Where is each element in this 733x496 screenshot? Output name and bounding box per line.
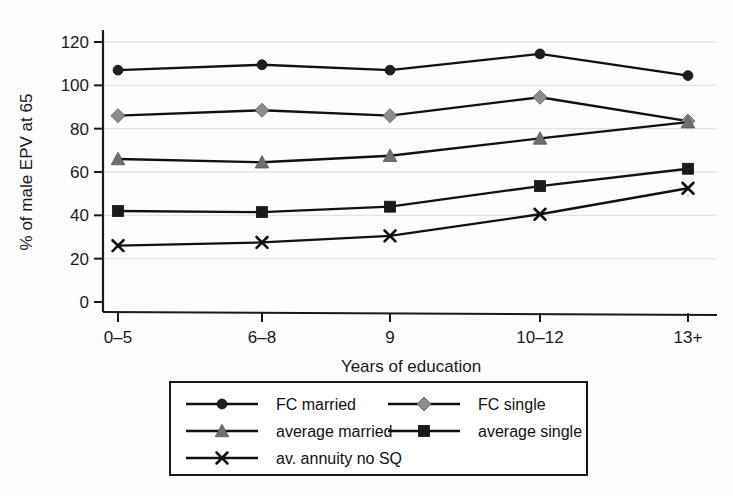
data-point-circle [257,60,267,70]
y-tick-label: 80 [70,120,89,139]
data-point-square [385,201,396,212]
data-point-circle [217,399,227,409]
data-point-square [683,163,694,174]
line-chart: 020406080100120 0–56–8910–1213+ % of mal… [0,0,733,496]
x-tick-label: 6–8 [248,328,276,347]
data-point-square [419,426,430,437]
y-tick-label: 40 [70,206,89,225]
data-point-circle [385,65,395,75]
y-tick-label: 100 [61,76,89,95]
y-tick-label: 0 [80,293,89,312]
chart-figure: 020406080100120 0–56–8910–1213+ % of mal… [0,0,733,496]
data-point-square [257,207,268,218]
y-axis-title: % of male EPV at 65 [17,94,36,251]
y-tick-label: 20 [70,250,89,269]
x-tick-label: 13+ [674,328,703,347]
x-axis-title: Years of education [341,357,481,376]
legend-label: FC married [276,396,356,413]
data-point-circle [113,65,123,75]
legend-label: average married [276,423,393,440]
legend-label: FC single [478,396,546,413]
y-tick-label: 120 [61,33,89,52]
data-point-circle [683,71,693,81]
data-point-circle [535,49,545,59]
legend-label: av. annuity no SQ [276,450,402,467]
data-point-square [535,181,546,192]
legend-label: average single [478,423,582,440]
legend-group: FC marriedFC singleaverage marriedaverag… [170,382,587,475]
x-tick-label: 10–12 [516,328,563,347]
x-tick-label: 9 [385,328,394,347]
data-point-square [113,206,124,217]
y-tick-label: 60 [70,163,89,182]
x-tick-label: 0–5 [104,328,132,347]
